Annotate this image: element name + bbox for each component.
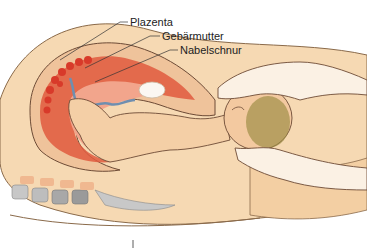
label-plazenta: Plazenta	[130, 16, 173, 28]
bladder	[139, 82, 165, 98]
label-gebaermutter: Gebärmutter	[162, 30, 224, 42]
label-nabelschnur: Nabelschnur	[180, 44, 242, 56]
